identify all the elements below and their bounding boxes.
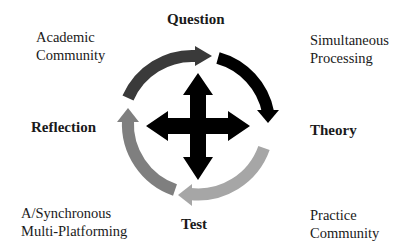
corner-label-practice-community: Practice Community bbox=[310, 206, 379, 242]
stage-label-reflection: Reflection bbox=[31, 118, 96, 136]
stage-label-theory: Theory bbox=[310, 121, 357, 139]
stage-label-test: Test bbox=[181, 215, 207, 233]
corner-label-asynchronous-multiplatforming: A/Synchronous Multi-Platforming bbox=[21, 204, 127, 240]
stage-label-question: Question bbox=[167, 10, 225, 28]
corner-label-academic-community: Academic Community bbox=[36, 28, 105, 64]
corner-label-simultaneous-processing: Simultaneous Processing bbox=[310, 31, 389, 67]
four-way-arrow-icon bbox=[146, 73, 250, 180]
cycle-arrow-question-to-theory bbox=[218, 58, 279, 123]
